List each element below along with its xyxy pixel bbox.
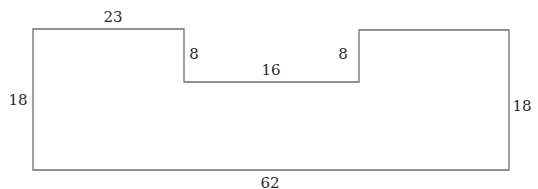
label-top-left-edge: 23	[103, 8, 122, 26]
label-notch-bottom: 16	[261, 61, 280, 79]
notched-rectangle-diagram: 23 8 16 8 18 18 62	[0, 0, 538, 189]
label-bottom-edge: 62	[260, 174, 279, 189]
shape-outline	[33, 29, 509, 170]
label-left-side: 18	[8, 91, 27, 109]
label-notch-right-depth: 8	[338, 45, 348, 63]
label-right-side: 18	[512, 97, 531, 115]
label-notch-left-depth: 8	[189, 45, 199, 63]
